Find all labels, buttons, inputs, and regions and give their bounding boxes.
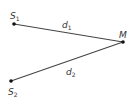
point-s2 <box>9 79 13 83</box>
label-s1: S1 <box>10 11 20 22</box>
label-d1: d1 <box>62 20 72 31</box>
distance-diagram: S1 d1 M d2 S2 <box>0 0 137 100</box>
label-s2: S2 <box>8 87 18 98</box>
label-m: M <box>119 30 127 40</box>
point-s1 <box>12 22 16 26</box>
label-d2: d2 <box>66 67 76 78</box>
point-m <box>121 40 125 44</box>
